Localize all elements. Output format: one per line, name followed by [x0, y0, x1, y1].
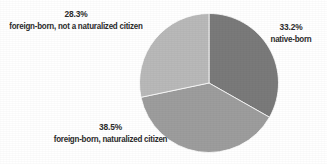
- pie-label-value-foreign-born-naturalized: 38.5%: [38, 122, 182, 134]
- pie-label-text-foreign-born-not-naturalized: foreign-born, not a naturalized citizen: [5, 21, 146, 33]
- pie-label-foreign-born-naturalized: 38.5% foreign-born, naturalized citizen: [38, 122, 182, 145]
- pie-label-value-foreign-born-not-naturalized: 28.3%: [5, 9, 146, 21]
- pie-label-foreign-born-not-naturalized: 28.3% foreign-born, not a naturalized ci…: [5, 9, 146, 32]
- pie-chart-figure: 28.3% foreign-born, not a naturalized ci…: [0, 0, 327, 164]
- pie-label-value-native-born: 33.2%: [258, 22, 325, 34]
- pie-label-text-foreign-born-naturalized: foreign-born, naturalized citizen: [38, 134, 182, 146]
- pie-label-text-native-born: native-born: [258, 34, 325, 46]
- pie-slice-2: [140, 14, 209, 98]
- pie-label-native-born: 33.2% native-born: [258, 22, 325, 45]
